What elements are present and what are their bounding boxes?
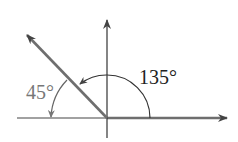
angle-diagram: 135° 45° — [0, 0, 238, 142]
label-45: 45° — [26, 81, 54, 103]
label-135: 135° — [139, 66, 177, 88]
